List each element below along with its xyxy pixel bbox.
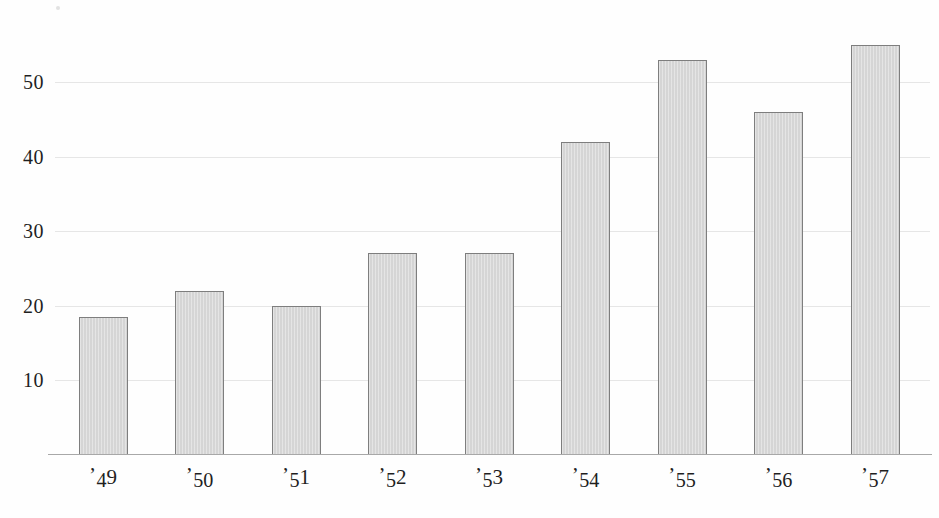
y-axis-tick-label: 50	[0, 72, 44, 92]
x-axis-tick-digits: 50	[193, 466, 213, 490]
bar	[658, 60, 707, 455]
bar	[175, 291, 224, 455]
x-axis-tick-label: ’49	[63, 462, 143, 491]
x-axis-tick-digits: 55	[676, 466, 696, 490]
x-axis-tick-label: ’53	[449, 462, 529, 491]
x-axis-tick-label: ’50	[160, 462, 240, 491]
x-axis-tick-label: ’51	[256, 462, 336, 491]
apostrophe-glyph: ’	[861, 463, 868, 487]
y-axis-tick-label: 10	[0, 370, 44, 390]
bar	[851, 45, 900, 455]
x-axis-tick-label: ’56	[739, 462, 819, 491]
x-axis-tick-label: ’54	[546, 462, 626, 491]
bar	[561, 142, 610, 455]
x-axis-tick-digits: 57	[868, 466, 889, 490]
bar	[79, 317, 128, 455]
x-axis-tick-digits: 54	[579, 466, 599, 490]
bar	[368, 253, 417, 454]
apostrophe-glyph: ’	[186, 463, 193, 487]
x-axis-tick-digits: 56	[772, 466, 792, 490]
x-axis-tick-digits: 53	[482, 466, 503, 490]
apostrophe-glyph: ’	[765, 463, 772, 487]
bar-chart-figure: 1020304050’49’50’51’52’53’54’55’56’57	[0, 0, 939, 518]
apostrophe-glyph: ’	[475, 463, 482, 487]
x-axis-baseline	[48, 454, 932, 455]
gridline-y-50	[55, 82, 930, 83]
x-axis-tick-digits: 49	[96, 466, 117, 490]
bar	[272, 306, 321, 455]
plot-area: 1020304050’49’50’51’52’53’54’55’56’57	[0, 0, 939, 518]
y-axis-tick-label: 40	[0, 147, 44, 167]
y-axis-tick-label: 20	[0, 296, 44, 316]
apostrophe-glyph: ’	[282, 463, 289, 487]
apostrophe-glyph: ’	[668, 463, 675, 487]
apostrophe-glyph: ’	[378, 463, 385, 487]
x-axis-tick-digits: 52	[386, 466, 407, 490]
x-axis-tick-label: ’52	[353, 462, 433, 491]
x-axis-tick-label: ’57	[835, 462, 915, 491]
bar	[754, 112, 803, 455]
apostrophe-glyph: ’	[89, 463, 96, 487]
y-axis-tick-label: 30	[0, 221, 44, 241]
bar	[465, 253, 514, 454]
x-axis-tick-digits: 51	[289, 466, 310, 490]
apostrophe-glyph: ’	[572, 463, 579, 487]
x-axis-tick-label: ’55	[642, 462, 722, 491]
